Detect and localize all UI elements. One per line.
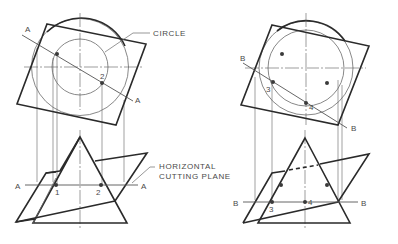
right-point-4-front [303, 200, 307, 204]
right-point-3-front [270, 200, 274, 204]
left-point-2-front [99, 183, 103, 187]
left-label-2-top: 2 [100, 72, 105, 81]
right-cutting-line-top [243, 63, 347, 128]
cutting-plane-label: CUTTING PLANE [159, 172, 231, 181]
left-label-a-top-start: A [25, 25, 31, 34]
right-label-3-top: 3 [266, 85, 271, 94]
right-point-4-top [304, 101, 308, 105]
right-plane-hidden-edge [289, 165, 318, 170]
left-projection-lines [37, 48, 124, 185]
left-label-2-front: 2 [96, 188, 101, 197]
right-square-top-view [241, 25, 369, 125]
right-label-b-front-end: B [361, 199, 367, 208]
right-dot-front-right [325, 183, 329, 187]
right-dot-right [325, 81, 329, 85]
left-cutting-line-top [22, 35, 133, 101]
intersection-diagram: A A 2 CIRCLE A A 1 2 HORIZONTAL CUTTING … [0, 0, 398, 244]
right-dot-front-left [279, 183, 283, 187]
right-plane-front-view-right [243, 154, 369, 223]
right-label-b-top-end: B [351, 124, 357, 133]
right-label-4-top: 4 [309, 103, 314, 112]
left-point-1-front [54, 183, 58, 187]
left-label-1-front: 1 [55, 188, 60, 197]
right-label-b-top-start: B [240, 54, 246, 63]
circle-label: CIRCLE [153, 29, 186, 38]
left-label-a-front-start: A [15, 182, 21, 191]
left-triangle-left-edge-upper [60, 137, 80, 171]
right-label-4-front: 4 [308, 198, 313, 207]
left-point-1-top [55, 52, 59, 56]
right-dot-upper-left [280, 52, 284, 56]
horizontal-label: HORIZONTAL [159, 162, 216, 171]
right-point-3-top [271, 80, 275, 84]
left-plane-bottom-edge [16, 201, 115, 222]
right-label-3-front: 3 [269, 205, 274, 214]
left-plane-top-short [46, 171, 60, 173]
left-drawing: A A 2 CIRCLE A A 1 2 HORIZONTAL CUTTING … [15, 13, 231, 230]
left-point-2-top [100, 81, 104, 85]
left-label-a-top-end: A [135, 96, 141, 105]
right-drawing: B B 3 4 B B 3 4 [233, 13, 369, 230]
left-label-a-front-end: A [141, 182, 147, 191]
right-label-b-front-start: B [233, 199, 239, 208]
